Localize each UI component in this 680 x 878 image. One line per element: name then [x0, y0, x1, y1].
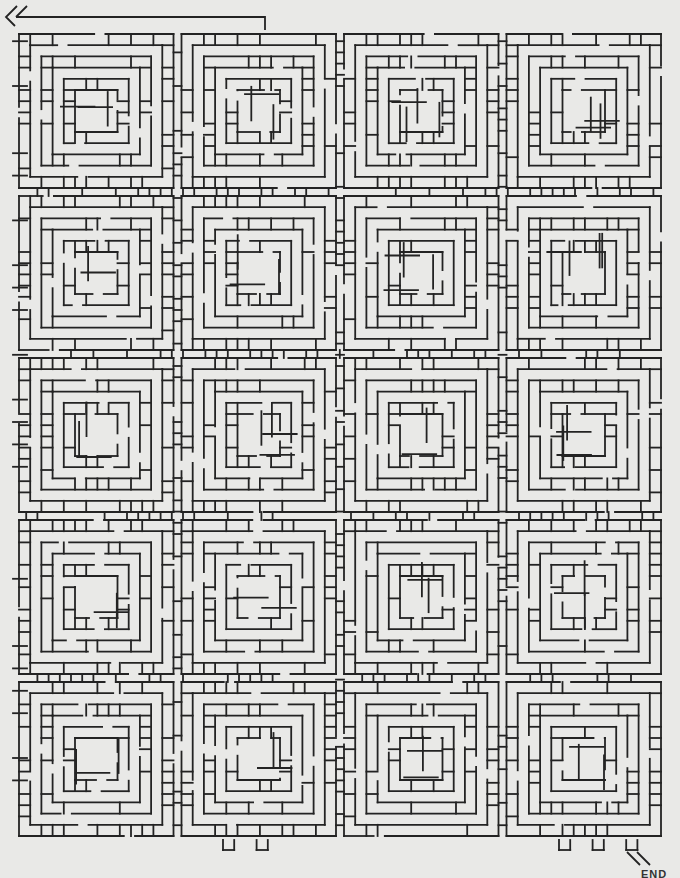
maze-walls — [13, 34, 661, 850]
start-arrow-icon[interactable] — [6, 6, 265, 30]
maze-puzzle: END — [0, 0, 680, 878]
end-arrow-icon[interactable] — [627, 852, 650, 865]
end-label: END — [641, 868, 667, 878]
maze-canvas — [0, 0, 680, 878]
